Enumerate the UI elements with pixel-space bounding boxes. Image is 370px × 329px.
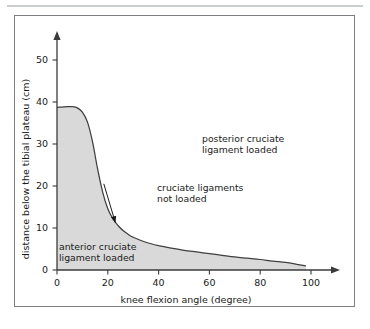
y-axis-tick-label: 20 (36, 180, 48, 191)
y-axis-tick-label: 40 (36, 96, 48, 107)
annotation-anterior-line-2: ligament loaded (59, 252, 136, 263)
y-axis-tick-label: 50 (36, 54, 48, 65)
y-axis-title: distance below the tibial plateau (cm) (20, 79, 31, 259)
x-axis-tick-label: 80 (254, 277, 266, 288)
x-axis-tick-label: 0 (54, 277, 60, 288)
y-axis-tick-label: 0 (42, 264, 48, 275)
x-axis-tick-label: 20 (102, 277, 114, 288)
annotation-cruciate-free-line-2: not loaded (157, 193, 243, 204)
x-axis-tick-label: 100 (302, 277, 320, 288)
y-axis-tick-label: 10 (36, 222, 48, 233)
figure-root: 01020304050020406080100knee flexion angl… (0, 0, 370, 329)
annotation-posterior-cruciate: posterior cruciate ligament loaded (202, 133, 284, 156)
plot-area: 01020304050020406080100knee flexion angl… (20, 31, 340, 305)
annotation-cruciate-free-line-1: cruciate ligaments (157, 182, 243, 193)
annotation-posterior-line-1: posterior cruciate (202, 133, 284, 144)
annotation-posterior-line-2: ligament loaded (202, 144, 284, 155)
y-axis-arrowhead (53, 31, 60, 40)
y-axis-tick-label: 30 (36, 138, 48, 149)
x-axis-title: knee flexion angle (degree) (120, 294, 251, 305)
x-axis-tick-label: 40 (153, 277, 165, 288)
annotation-cruciate-not-loaded: cruciate ligaments not loaded (157, 182, 243, 205)
annotation-anterior-line-1: anterior cruciate (59, 241, 136, 252)
x-axis-tick-label: 60 (203, 277, 215, 288)
chart-canvas: 01020304050020406080100knee flexion angl… (0, 0, 370, 329)
annotation-anterior-cruciate: anterior cruciate ligament loaded (59, 241, 136, 264)
x-axis-arrowhead (331, 266, 340, 273)
